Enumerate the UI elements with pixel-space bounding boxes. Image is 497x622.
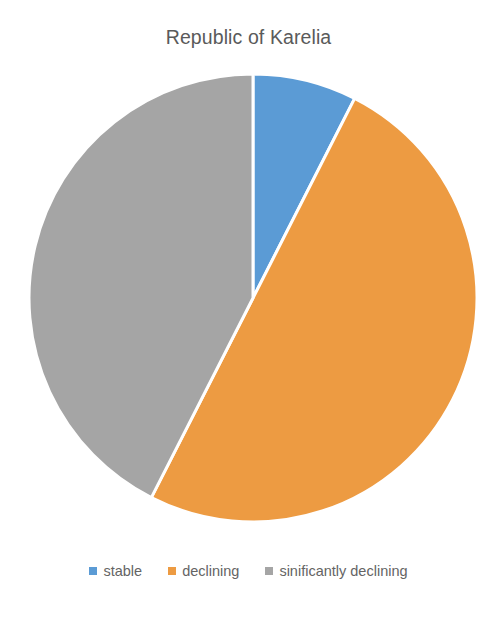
legend-item-sinificantly-declining[interactable]: sinificantly declining bbox=[265, 564, 407, 579]
chart-title: Republic of Karelia bbox=[0, 26, 497, 49]
legend-swatch-icon bbox=[265, 567, 273, 575]
pie-chart-figure: Republic of Karelia stabledecliningsinif… bbox=[0, 0, 497, 622]
chart-legend: stabledecliningsinificantly declining bbox=[0, 556, 497, 586]
legend-item-stable[interactable]: stable bbox=[89, 564, 142, 579]
legend-item-label: stable bbox=[103, 564, 142, 579]
legend-swatch-icon bbox=[168, 567, 176, 575]
legend-swatch-icon bbox=[89, 567, 97, 575]
legend-item-declining[interactable]: declining bbox=[168, 564, 239, 579]
pie-slice-group bbox=[29, 74, 477, 522]
legend-item-label: sinificantly declining bbox=[279, 564, 407, 579]
plot-area bbox=[0, 60, 497, 540]
legend-item-label: declining bbox=[182, 564, 239, 579]
pie-svg bbox=[0, 60, 497, 540]
